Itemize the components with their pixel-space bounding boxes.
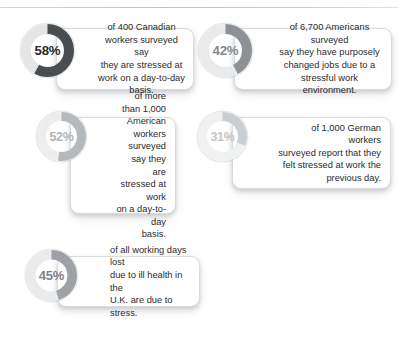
donut-chart-uk-working-days: 45%	[26, 250, 77, 301]
header-divider	[0, 7, 398, 8]
stat-callout-canadian-workers: of 400 Canadian workers surveyed say the…	[56, 28, 194, 90]
donut-chart-american-job-changers: 42%	[199, 24, 252, 77]
stat-description-american-job-changers: of 6,700 Americans surveyed say they hav…	[235, 29, 391, 89]
stat-callout-american-job-changers: of 6,700 Americans surveyed say they hav…	[234, 28, 392, 90]
stat-callout-german-workers: of 1,000 German workers surveyed report …	[232, 117, 391, 189]
donut-chart-german-workers: 31%	[198, 112, 247, 161]
stat-description-canadian-workers: of 400 Canadian workers surveyed say the…	[57, 29, 193, 89]
stat-description-german-workers: of 1,000 German workers surveyed report …	[233, 118, 390, 188]
stress-statistics-infographic: of 400 Canadian workers surveyed say the…	[0, 0, 398, 338]
donut-chart-american-workers: 52%	[37, 112, 86, 161]
stat-description-uk-working-days: of all working days lost due to ill heal…	[58, 257, 199, 306]
stat-callout-uk-working-days: of all working days lost due to ill heal…	[57, 256, 200, 307]
donut-chart-canadian-workers: 58%	[21, 24, 74, 77]
